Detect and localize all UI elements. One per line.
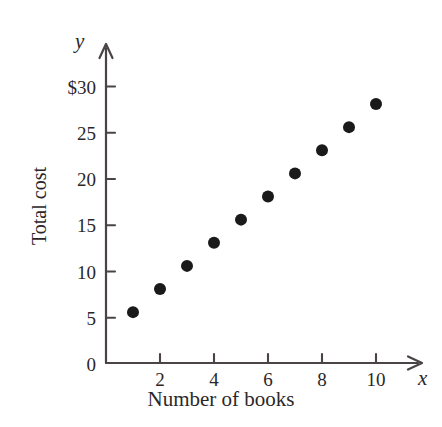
data-point xyxy=(181,260,193,272)
data-point xyxy=(370,98,382,110)
y-tick-label-30: $30 xyxy=(32,77,96,96)
y-axis-ticks xyxy=(106,87,115,318)
y-tick-label-5: 5 xyxy=(32,308,96,327)
data-point xyxy=(316,144,328,156)
scatter-plot-figure: $30 25 20 15 10 5 0 2 4 6 8 10 y x Total… xyxy=(0,0,442,427)
x-axis-variable-label: x xyxy=(418,368,427,389)
data-point xyxy=(343,121,355,133)
x-axis-ticks xyxy=(160,354,376,363)
data-point xyxy=(127,306,139,318)
x-tick-label-10: 10 xyxy=(367,370,386,389)
x-axis-title: Number of books xyxy=(0,389,442,410)
y-tick-label-0: 0 xyxy=(32,355,96,374)
data-point xyxy=(289,167,301,179)
axes-group xyxy=(100,44,423,370)
data-points-group xyxy=(127,98,382,318)
x-tick-label-8: 8 xyxy=(317,370,327,389)
y-axis-title: Total cost xyxy=(29,126,49,286)
data-point xyxy=(262,191,274,203)
y-axis-variable-label: y xyxy=(75,31,84,52)
data-point xyxy=(154,283,166,295)
data-point xyxy=(235,214,247,226)
data-point xyxy=(208,237,220,249)
